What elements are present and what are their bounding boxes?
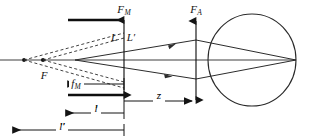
label-focal-f: F xyxy=(40,69,48,81)
virtual-ray-upper-outer xyxy=(24,33,124,60)
diagram-canvas: FM FA L L′ F fM z l l′ fM z l l′ xyxy=(0,0,309,139)
virtual-ray-lower-inner xyxy=(43,60,124,82)
label-l-dimension-top: l xyxy=(94,102,97,114)
ray-direction-arrowheads xyxy=(164,43,177,78)
label-fa-plane: FA xyxy=(189,3,202,17)
label-l-prime-dimension-top: l′ xyxy=(59,120,65,132)
label-fm-plane: FM xyxy=(116,3,131,17)
label-z-dimension-top: z xyxy=(156,89,162,101)
label-l: L xyxy=(110,31,117,43)
optical-diagram-figure: FM FA L L′ F fM z l l′ fM z l l′ xyxy=(0,0,309,139)
ray-lower-to-lens xyxy=(75,60,196,79)
ray-upper-to-lens xyxy=(75,40,196,60)
dimension-l-prime xyxy=(13,124,124,136)
label-l-prime: L′ xyxy=(126,31,136,43)
